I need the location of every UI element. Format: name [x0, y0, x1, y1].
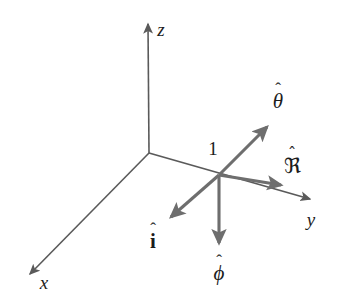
- y-axis-label: y: [307, 210, 315, 229]
- x-axis-label: x: [40, 273, 48, 292]
- i-hat-label: ˆ i: [150, 231, 156, 252]
- r-hat-label: ˆ ℜ: [284, 156, 301, 177]
- phi-hat-label: ˆ ϕ: [214, 263, 225, 284]
- r-hat-accent: ˆ: [288, 144, 297, 161]
- theta-hat-vector: [219, 127, 267, 175]
- i-hat-accent: ˆ: [150, 219, 156, 236]
- i-hat-vector: [171, 175, 219, 217]
- spherical-unit-vector-diagram: z y x 1 ˆ θ ˆ ℜ ˆ ϕ ˆ i: [0, 0, 340, 302]
- phi-hat-accent: ˆ: [216, 251, 222, 268]
- axes-group: [30, 24, 310, 274]
- unit-vectors-group: [171, 127, 281, 243]
- z-axis-label: z: [157, 20, 164, 39]
- x-axis-line: [30, 153, 149, 274]
- theta-hat-label: ˆ θ: [273, 91, 283, 112]
- theta-hat-accent: ˆ: [275, 79, 281, 96]
- z-axis-line: [148, 24, 149, 153]
- r-hat-vector: [219, 175, 281, 185]
- unit-length-label: 1: [208, 139, 218, 158]
